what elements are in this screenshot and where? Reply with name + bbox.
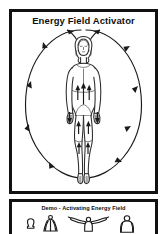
right-arc-flow-arrows (114, 44, 138, 164)
demo-pose-arms-down-figure (121, 216, 134, 233)
standing-female-figure (66, 37, 101, 184)
demo-poses-illustration (12, 202, 155, 234)
energy-field-illustration (12, 12, 155, 191)
demo-pose-hands-overhead-figure (44, 215, 57, 231)
demo-activating-energy-field-panel: Demo - Activating Energy Field (9, 199, 158, 234)
diagram-page: Energy Field Activator (0, 0, 167, 234)
energy-field-activator-panel: Energy Field Activator (9, 9, 158, 194)
demo-pose-seated-figure (28, 219, 34, 228)
demo-pose-arms-outstretched-figure (68, 217, 108, 231)
